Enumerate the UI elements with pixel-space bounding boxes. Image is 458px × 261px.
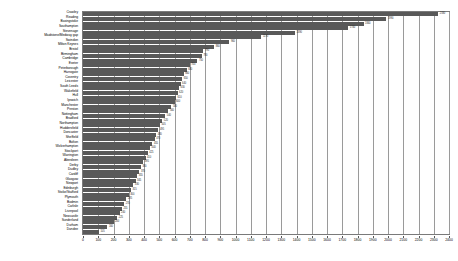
bar-value-label: 370 <box>141 170 145 173</box>
bar <box>83 151 148 155</box>
bar <box>83 137 155 141</box>
bar-value-label: 240 <box>121 212 125 215</box>
bar-value-label: 790 <box>205 50 209 53</box>
x-tick-label: 1800 <box>354 239 362 242</box>
bar-value-label: 425 <box>149 152 153 155</box>
category-label: Southampton <box>59 25 78 28</box>
bar-value-label: 300 <box>130 193 134 196</box>
bar-value-label: 540 <box>167 115 171 118</box>
bar <box>83 197 126 201</box>
bar <box>83 45 214 49</box>
category-label: Sheffield <box>66 136 78 139</box>
bar <box>83 105 171 109</box>
x-tick-label: 1600 <box>323 239 331 242</box>
bar-row: 1840 <box>83 22 449 26</box>
x-tick-label: 500 <box>156 239 162 242</box>
category-label: Newport <box>66 182 78 185</box>
bar <box>83 86 179 90</box>
bar-row: 240 <box>83 211 449 215</box>
x-tick-label: 800 <box>202 239 208 242</box>
bar <box>83 22 364 26</box>
bar-value-label: 160 <box>109 226 113 229</box>
bar-row: 270 <box>83 202 449 206</box>
bar-value-label: 380 <box>142 166 146 169</box>
bar <box>83 202 124 206</box>
bar <box>83 230 99 234</box>
category-label: Dundee <box>67 228 78 231</box>
bar <box>83 211 120 215</box>
x-tick-label: 2200 <box>415 239 423 242</box>
bar-row: 410 <box>83 156 449 160</box>
bar-row: 470 <box>83 137 449 141</box>
bar-row: 790 <box>83 49 449 53</box>
bar <box>83 12 438 16</box>
bar-value-label: 505 <box>162 124 166 127</box>
bar-row: 780 <box>83 54 449 58</box>
x-tick-label: 2000 <box>384 239 392 242</box>
category-label: Exeter <box>69 62 78 65</box>
category-label: Northampton <box>59 122 78 125</box>
x-tick-label: 1200 <box>262 239 270 242</box>
x-tick-label: 1400 <box>293 239 301 242</box>
bar <box>83 77 182 81</box>
bar-value-label: 700 <box>191 64 195 67</box>
x-tick-label: 2300 <box>430 239 438 242</box>
bar <box>83 146 150 150</box>
bar-value-label: 960 <box>231 41 235 44</box>
bar <box>83 160 143 164</box>
category-label: Ipswich <box>67 99 78 102</box>
bar-value-label: 495 <box>160 129 164 132</box>
x-tick-label: 900 <box>217 239 223 242</box>
bar <box>83 63 190 67</box>
x-tick-label: 1100 <box>247 239 254 242</box>
bar-row: 540 <box>83 114 449 118</box>
bar-row: 660 <box>83 72 449 76</box>
bar-value-label: 395 <box>145 161 149 164</box>
bar-value-label: 355 <box>139 175 143 178</box>
bar-row: 480 <box>83 133 449 137</box>
x-tick-label: 1300 <box>277 239 285 242</box>
category-label: Preston <box>67 108 78 111</box>
category-label: Harrogate <box>64 71 78 74</box>
bar-row: 255 <box>83 207 449 211</box>
bar <box>83 17 386 21</box>
bar-value-label: 780 <box>203 55 207 58</box>
bar <box>83 188 131 192</box>
bar-row: 580 <box>83 105 449 109</box>
bar-value-label: 1390 <box>296 32 301 35</box>
bar <box>83 142 152 146</box>
bar-value-label: 1170 <box>263 36 268 39</box>
bar <box>83 128 158 132</box>
bar-row: 2330 <box>83 12 449 16</box>
bar-value-label: 455 <box>154 143 158 146</box>
bar <box>83 179 136 183</box>
bar-row: 505 <box>83 123 449 127</box>
bar-row: 425 <box>83 151 449 155</box>
bar-row: 700 <box>83 63 449 67</box>
plot-area: 2330199018401740139011709608607907807507… <box>82 11 450 235</box>
category-label: Wolverhampton <box>56 145 78 148</box>
bar-value-label: 860 <box>216 45 220 48</box>
x-tick-label: 1000 <box>232 239 240 242</box>
bar-row: 630 <box>83 86 449 90</box>
bar-value-label: 1990 <box>388 18 393 21</box>
bar-row: 860 <box>83 45 449 49</box>
bar-row: 750 <box>83 59 449 63</box>
x-tick-label: 400 <box>141 239 147 242</box>
bar-value-label: 640 <box>182 82 186 85</box>
bar <box>83 156 146 160</box>
bar <box>83 49 203 53</box>
bar-value-label: 580 <box>173 106 177 109</box>
bar <box>83 59 197 63</box>
x-tick-label: 700 <box>187 239 193 242</box>
bar-row: 315 <box>83 188 449 192</box>
bar-row: 105 <box>83 230 449 234</box>
bar <box>83 109 168 113</box>
x-axis: 0100200300400500600700800900100011001200… <box>82 236 450 250</box>
bar <box>83 54 202 58</box>
bar-value-label: 470 <box>156 138 160 141</box>
bar-row: 1170 <box>83 35 449 39</box>
bar-value-label: 345 <box>137 180 141 183</box>
x-tick-label: 1900 <box>369 239 377 242</box>
bar-value-label: 225 <box>119 217 123 220</box>
